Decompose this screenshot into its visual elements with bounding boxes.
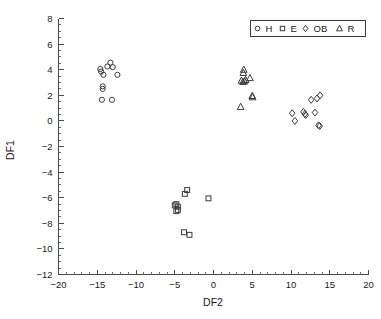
legend-label-H: H: [266, 23, 273, 34]
x-tick-label: 5: [250, 279, 255, 290]
chart-legend: HEOBR: [251, 21, 366, 37]
legend-label-OB: OB: [314, 23, 328, 34]
y-tick-label: −12: [36, 269, 52, 280]
y-tick-label: 8: [47, 13, 52, 24]
x-axis-title: DF2: [203, 296, 223, 308]
x-tick-label: 10: [286, 279, 297, 290]
x-tick-label: 15: [324, 279, 335, 290]
plot-canvas: −20−15−10−505101520 −12−10−8−6−4−202468 …: [0, 0, 381, 319]
y-tick-label: −10: [36, 243, 52, 254]
y-axis-title: DF1: [4, 140, 16, 160]
x-tick-label: −5: [169, 279, 180, 290]
x-tick-label: −10: [128, 279, 144, 290]
y-tick-label: −2: [42, 141, 53, 152]
x-tick-label: −15: [89, 279, 105, 290]
y-tick-label: −4: [42, 167, 53, 178]
x-tick-label: 20: [363, 279, 374, 290]
y-tick-label: 4: [47, 64, 52, 75]
y-tick-label: −6: [42, 192, 53, 203]
legend-label-E: E: [291, 23, 297, 34]
x-axis-tick-labels: −20−15−10−505101520: [50, 279, 373, 290]
x-tick-label: 0: [211, 279, 216, 290]
y-tick-label: 2: [47, 90, 52, 101]
figure-background: [0, 0, 381, 319]
y-tick-label: −8: [42, 218, 53, 229]
x-tick-label: −20: [50, 279, 66, 290]
legend-label-R: R: [348, 23, 355, 34]
scatter-plot-figure: −20−15−10−505101520 −12−10−8−6−4−202468 …: [0, 0, 381, 319]
y-tick-label: 6: [47, 39, 52, 50]
y-tick-label: 0: [47, 115, 52, 126]
